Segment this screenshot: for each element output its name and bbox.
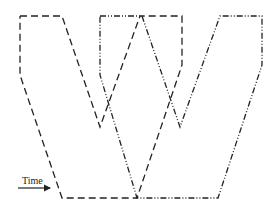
time-label: Time — [22, 175, 43, 186]
w-shape-dashed — [20, 16, 182, 198]
w-shape-dash-dot — [100, 16, 262, 198]
